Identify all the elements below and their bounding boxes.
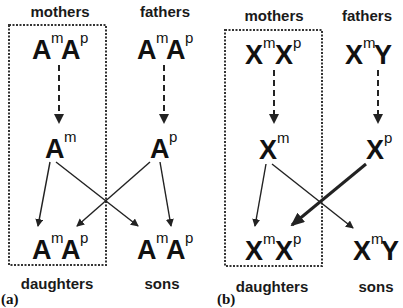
allele-sup: p <box>384 129 392 146</box>
allele-sup: p <box>80 29 88 46</box>
arrowhead-icon <box>159 114 169 124</box>
father-genotype: A m A p <box>137 29 193 65</box>
panel-a: mothers fathers A m A p A m A p A m A p <box>1 3 193 308</box>
allele-base: X <box>345 40 363 70</box>
allele-base: X <box>245 236 263 266</box>
arrowhead-icon <box>269 114 279 124</box>
allele-base: A <box>61 235 81 265</box>
son-genotype: X m Y <box>353 230 399 266</box>
allele-sup: p <box>80 229 88 246</box>
panel-label-a: (a) <box>1 291 19 308</box>
mother-genotype: X m X p <box>245 34 301 70</box>
allele-sup: p <box>185 29 193 46</box>
allele-base: A <box>32 35 52 65</box>
arrow-father-to-daughter <box>77 162 150 226</box>
allele-sup: p <box>169 128 177 145</box>
allele-base: X <box>275 40 293 70</box>
allele-base: X <box>275 236 293 266</box>
allele-base: A <box>32 235 52 265</box>
footer-sons: sons <box>144 275 179 292</box>
footer-daughters: daughters <box>236 278 309 295</box>
allele-base: A <box>166 235 186 265</box>
allele-base: Y <box>381 236 399 266</box>
panel-b: mothers fathers X m X p X m Y X m X p <box>217 7 399 308</box>
father-genotype: X m Y <box>345 34 392 70</box>
allele-base: A <box>166 35 186 65</box>
arrow-mother-to-son <box>56 162 138 226</box>
arrow-mother-to-son <box>272 164 353 228</box>
allele-base: X <box>353 236 371 266</box>
allele-sup: m <box>64 128 77 145</box>
allele-base: A <box>137 35 157 65</box>
mother-gamete: A m <box>45 128 77 164</box>
arrowhead-icon <box>54 114 64 124</box>
allele-sup: m <box>263 230 276 247</box>
arrow-father-to-son <box>160 162 171 226</box>
allele-base: Y <box>374 40 392 70</box>
allele-base: A <box>137 235 157 265</box>
son-genotype: A m A p <box>137 229 193 265</box>
panel-label-b: (b) <box>217 291 235 308</box>
inheritance-diagram: mothers fathers A m A p A m A p A m A p <box>0 0 403 308</box>
arrow-father-to-daughter-emphasized <box>292 164 366 225</box>
allele-sup: m <box>277 129 290 146</box>
allele-sup: m <box>263 34 276 51</box>
allele-sup: p <box>185 229 193 246</box>
header-fathers: fathers <box>342 7 392 24</box>
allele-base: X <box>245 40 263 70</box>
arrowhead-icon <box>373 114 383 124</box>
header-fathers: fathers <box>140 3 190 20</box>
daughter-genotype: A m A p <box>32 229 88 265</box>
arrow-mother-to-daughter <box>255 164 266 226</box>
mother-gamete: X m <box>259 129 290 165</box>
footer-daughters: daughters <box>21 275 94 292</box>
allele-base: X <box>366 135 384 165</box>
allele-base: X <box>259 135 277 165</box>
daughter-genotype: X m X p <box>245 230 301 266</box>
mother-genotype: A m A p <box>32 29 88 65</box>
allele-base: A <box>150 134 170 164</box>
header-mothers: mothers <box>244 7 303 24</box>
allele-sup: p <box>293 230 301 247</box>
footer-sons: sons <box>358 278 393 295</box>
header-mothers: mothers <box>30 3 89 20</box>
father-gamete: X p <box>366 129 392 165</box>
allele-base: A <box>45 134 65 164</box>
allele-base: A <box>61 35 81 65</box>
arrow-mother-to-daughter <box>38 162 50 226</box>
father-gamete: A p <box>150 128 177 164</box>
allele-sup: p <box>293 34 301 51</box>
